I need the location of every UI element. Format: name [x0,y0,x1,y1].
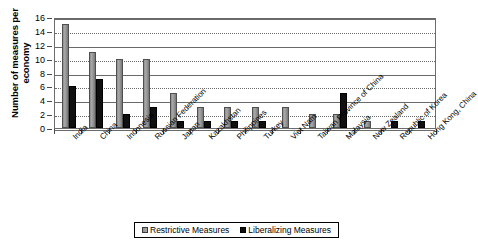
legend-swatch-liberalizing-icon [240,227,246,233]
y-axis-tick-label: 10 [35,55,45,65]
bar-group [299,19,326,128]
y-axis-tick-mark [47,115,52,116]
y-axis-tick-mark [47,60,52,61]
legend-item-liberalizing: Liberalizing Measures [240,225,331,235]
bar-restrictive [62,24,69,128]
bar-group [272,19,299,128]
bar-liberalizing [96,79,103,128]
bar-liberalizing [123,114,130,128]
legend-label-restrictive: Restrictive Measures [150,225,229,235]
y-axis-tick-label: 12 [35,41,45,51]
bar-group [109,19,136,128]
y-axis-tick-label: 8 [40,69,45,79]
y-axis-tick-mark [47,18,52,19]
bar-restrictive [89,52,96,128]
legend-item-restrictive: Restrictive Measures [142,225,229,235]
y-axis-tick-label: 2 [40,110,45,120]
y-axis-tick-label: 6 [40,82,45,92]
y-axis-tick-mark [47,87,52,88]
y-axis-tick-mark [47,32,52,33]
legend-swatch-restrictive-icon [142,227,148,233]
y-axis-tick-labels: 0246810121416 [0,18,52,129]
y-axis-tick-mark [47,101,52,102]
y-axis-tick-label: 14 [35,27,45,37]
bar-restrictive [116,59,123,128]
x-axis-category-labels: IndiaChinaIndonesiaRussian FederationJap… [0,129,455,214]
bar-group [55,19,82,128]
bar-liberalizing [204,121,211,128]
y-axis-tick-label: 4 [40,96,45,106]
bar-liberalizing [69,86,76,128]
bar-group [82,19,109,128]
y-axis-tick-mark [47,74,52,75]
y-axis-tick-label: 16 [35,13,45,23]
chart-legend: Restrictive Measures Liberalizing Measur… [134,222,339,238]
legend-label-liberalizing: Liberalizing Measures [248,225,331,235]
bar-group [191,19,218,128]
y-axis-tick-mark [47,46,52,47]
